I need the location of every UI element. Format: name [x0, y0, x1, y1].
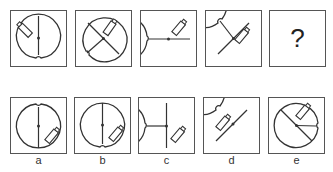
option-d-icon: [204, 98, 259, 153]
option-d-label: d: [203, 154, 260, 166]
option-e-icon: [269, 98, 324, 153]
figure-2-icon: [76, 11, 131, 66]
option-b-label: b: [74, 154, 131, 166]
option-e-label: e: [268, 154, 325, 166]
option-b-icon: [75, 98, 130, 153]
option-a-icon: [11, 98, 66, 153]
option-c-label: c: [138, 154, 195, 166]
option-c[interactable]: [138, 97, 195, 154]
option-b[interactable]: [74, 97, 131, 154]
option-c-icon: [139, 98, 194, 153]
question-figure-1: [10, 10, 67, 67]
question-figure-2: [75, 10, 132, 67]
question-figure-3: [140, 10, 197, 67]
figure-1-icon: [11, 11, 66, 66]
question-mark: ?: [270, 11, 325, 66]
option-e[interactable]: [268, 97, 325, 154]
question-figure-4: [205, 10, 262, 67]
figure-4-icon: [206, 11, 261, 66]
question-placeholder: ?: [269, 10, 326, 67]
option-d[interactable]: [203, 97, 260, 154]
option-a-label: a: [10, 154, 67, 166]
option-a[interactable]: [10, 97, 67, 154]
figure-3-icon: [141, 11, 196, 66]
